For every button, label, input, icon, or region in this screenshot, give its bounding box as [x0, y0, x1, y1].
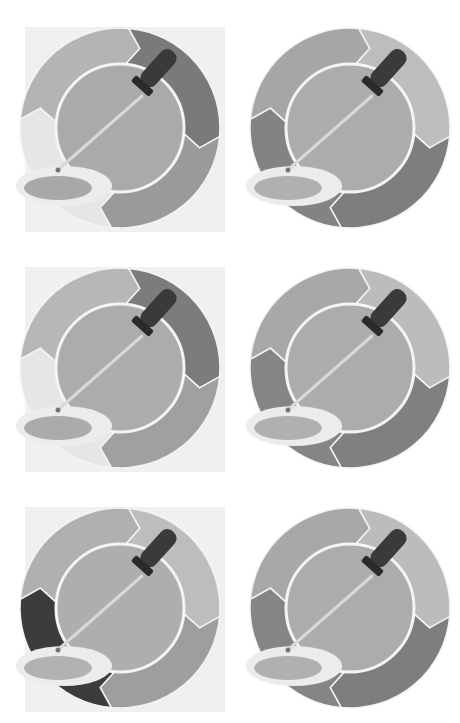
- dish-liquid: [254, 176, 322, 200]
- dish-liquid: [24, 416, 92, 440]
- dish-liquid: [24, 176, 92, 200]
- drop: [286, 648, 291, 653]
- eyedropper-color-wheel-5: [0, 480, 230, 720]
- eyedropper-color-wheel-3: [0, 240, 230, 480]
- drop: [56, 168, 61, 173]
- drop: [56, 648, 61, 653]
- eyedropper-color-wheel-6: [230, 480, 460, 720]
- dish-liquid: [254, 656, 322, 680]
- eyedropper-color-wheel-icon: [230, 480, 460, 720]
- icon-grid: [0, 0, 460, 723]
- eyedropper-color-wheel-2: [230, 0, 460, 240]
- dish-liquid: [254, 416, 322, 440]
- eyedropper-color-wheel-4: [230, 240, 460, 480]
- eyedropper-color-wheel-icon: [230, 0, 460, 240]
- drop: [286, 168, 291, 173]
- drop: [56, 408, 61, 413]
- dish-liquid: [24, 656, 92, 680]
- eyedropper-color-wheel-icon: [0, 240, 230, 480]
- eyedropper-color-wheel-icon: [0, 0, 230, 240]
- drop: [286, 408, 291, 413]
- eyedropper-color-wheel-icon: [0, 480, 230, 720]
- eyedropper-color-wheel-icon: [230, 240, 460, 480]
- eyedropper-color-wheel-1: [0, 0, 230, 240]
